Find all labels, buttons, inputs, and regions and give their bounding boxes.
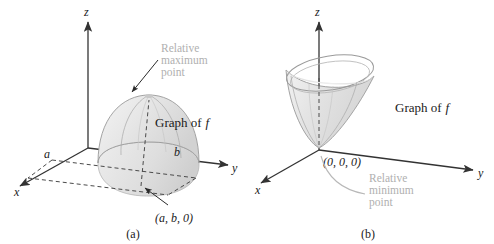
x-axis-label-b: x [254,183,261,197]
callout-maximum-line2: maximum [161,54,208,66]
callout-minimum-line3: point [369,196,393,209]
dome-apex-marker [145,94,153,98]
callout-minimum-line2: minimum [369,184,414,196]
panel-caption-b: (b) [361,227,375,241]
point-label-origin: (0, 0, 0) [323,155,361,169]
callout-maximum-line3: point [161,66,185,79]
callout-leader-maximum [132,60,158,92]
figure-container: z y x a [0,0,494,244]
graph-of-f-label-b: Graph off [395,100,452,115]
z-axis-label-b: z [314,5,320,19]
x-axis-b [261,150,319,183]
z-axis-label-a: z [83,5,89,19]
y-axis-label-a: y [231,161,238,175]
x-axis-label-a: x [13,185,20,199]
x-tick-label-a: a [44,147,50,161]
callout-maximum-line1: Relative [161,42,199,54]
panel-b-relative-minimum: z y x Graph off (0, 0 [247,0,494,244]
panel-a-diagram: z y x a [0,0,247,244]
y-tick-label-b: b [174,145,180,159]
panel-b-diagram: z y x Graph off (0, 0 [247,0,494,244]
graph-of-f-label-a: Graph off [155,115,212,130]
callout-minimum-line1: Relative [369,172,407,184]
point-label-abo: (a, b, 0) [155,211,193,225]
x-axis-a [20,148,88,186]
panel-a-relative-maximum: z y x a [0,0,247,244]
panel-caption-a: (a) [126,227,139,241]
y-axis-label-b: y [477,166,484,180]
